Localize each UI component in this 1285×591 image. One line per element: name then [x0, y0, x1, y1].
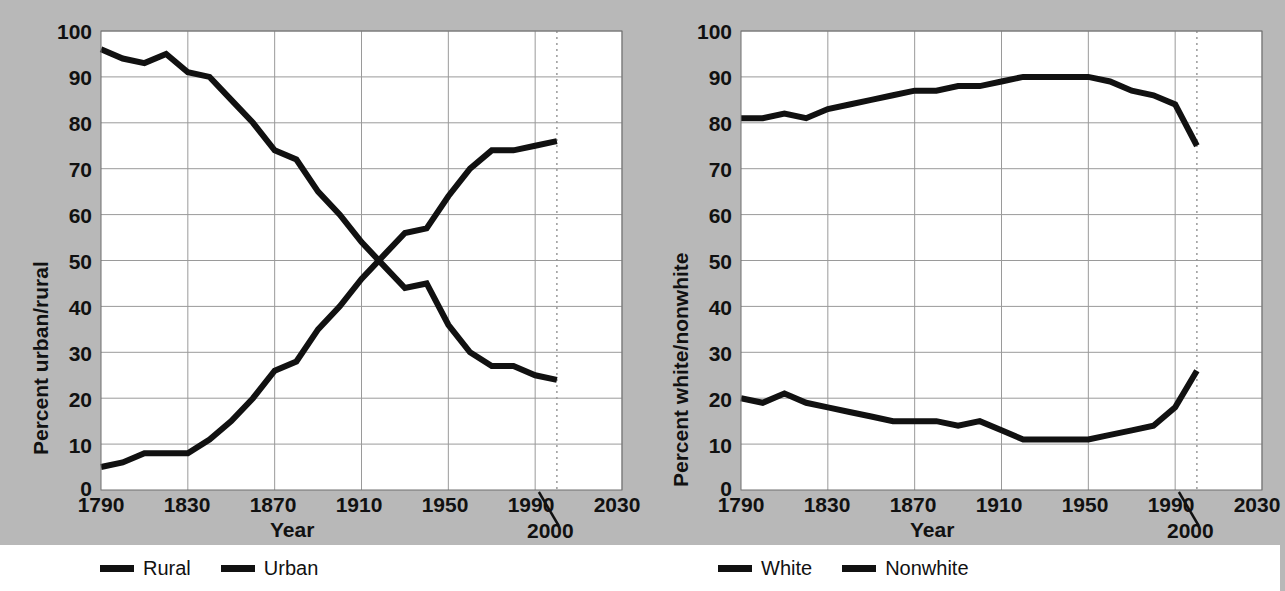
legend-label-rural: Rural	[143, 558, 191, 578]
gridlines	[101, 31, 622, 490]
x-tick-1910-right: 1910	[959, 494, 1039, 515]
series-line-nonwhite	[741, 371, 1197, 440]
x-tick-2030-right: 2030	[1217, 494, 1285, 515]
legend-urban-rural: Rural Urban	[100, 545, 348, 591]
x-tick-1950-right: 1950	[1045, 494, 1125, 515]
legend-item-rural: Rural	[100, 558, 191, 578]
legend-line-icon-rural	[100, 565, 134, 572]
series-line-white	[741, 77, 1197, 146]
x-tick-1950-left: 1950	[405, 494, 485, 515]
legend-line-icon-white	[718, 565, 752, 572]
gridlines	[741, 31, 1262, 490]
chart-canvas-urban-rural	[0, 0, 640, 545]
chart-panel-white-nonwhite: Percent white/nonwhite 100 90 80 70 60 5…	[640, 0, 1280, 545]
x-tick-1830-left: 1830	[147, 494, 227, 515]
projection-callout-left: 2000	[527, 520, 574, 541]
legend-line-icon-nonwhite	[842, 565, 876, 572]
series-line-urban	[101, 141, 557, 467]
x-tick-1790-right: 1790	[701, 494, 781, 515]
x-tick-1910-left: 1910	[319, 494, 399, 515]
legend-item-urban: Urban	[221, 558, 318, 578]
legend-item-nonwhite: Nonwhite	[842, 558, 968, 578]
x-axis-title-right: Year	[910, 519, 954, 540]
x-tick-1870-right: 1870	[873, 494, 953, 515]
legend-strip: Rural Urban White Nonwhite	[0, 545, 1280, 591]
legend-label-white: White	[761, 558, 812, 578]
legend-label-nonwhite: Nonwhite	[885, 558, 968, 578]
x-axis-title-left: Year	[270, 519, 314, 540]
legend-white-nonwhite: White Nonwhite	[718, 545, 999, 591]
legend-label-urban: Urban	[264, 558, 318, 578]
legend-line-icon-urban	[221, 565, 255, 572]
legend-item-white: White	[718, 558, 812, 578]
x-tick-1990-left: 1990	[491, 494, 571, 515]
x-tick-1790-left: 1790	[61, 494, 141, 515]
x-tick-1870-left: 1870	[233, 494, 313, 515]
chart-panel-urban-rural: Percent urban/rural 100 90 80 70 60 50 4…	[0, 0, 640, 545]
x-tick-1830-right: 1830	[787, 494, 867, 515]
projection-callout-right: 2000	[1167, 520, 1214, 541]
x-tick-1990-right: 1990	[1131, 494, 1211, 515]
chart-canvas-white-nonwhite	[640, 0, 1280, 545]
